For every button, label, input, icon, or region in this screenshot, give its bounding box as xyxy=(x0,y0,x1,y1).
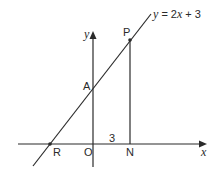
point-P-label: P xyxy=(123,26,130,38)
point-A-label: A xyxy=(83,80,91,92)
y-axis-label: y xyxy=(83,27,90,41)
y-axis-arrow-icon xyxy=(90,31,97,39)
line-equation-label: y = 2x + 3 xyxy=(152,7,201,21)
point-R-label: R xyxy=(53,146,61,158)
x-axis-label: x xyxy=(200,145,207,159)
point-O-label: O xyxy=(84,146,93,158)
coordinate-diagram: y = 2x + 3 y x P A R O N 3 xyxy=(0,0,223,182)
length-ON-label: 3 xyxy=(109,132,115,144)
point-P-dot xyxy=(128,38,132,42)
point-N-label: N xyxy=(126,146,134,158)
point-R-dot xyxy=(48,142,52,146)
